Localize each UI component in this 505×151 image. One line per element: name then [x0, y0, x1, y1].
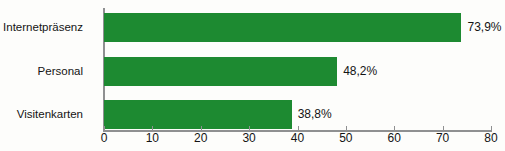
x-tick-mark [104, 126, 105, 130]
x-tick-label: 40 [291, 131, 304, 145]
x-tick-mark [346, 126, 347, 130]
x-tick-label: 80 [484, 131, 497, 145]
bar-personal [104, 57, 337, 86]
x-tick-label: 0 [101, 131, 108, 145]
x-tick-mark [249, 126, 250, 130]
category-label-1: Personal [0, 57, 83, 86]
bar-row: Personal 48,2% [104, 57, 491, 86]
bar-visitenkarten [104, 100, 292, 129]
x-tick-label: 60 [388, 131, 401, 145]
x-tick-mark [152, 126, 153, 130]
x-tick-mark [394, 126, 395, 130]
plot-area: Internetpräsenz 73,9% Personal 48,2% Vis… [104, 8, 491, 131]
x-tick-label: 30 [242, 131, 255, 145]
bar-internetpraesenz [104, 13, 461, 42]
category-label-2: Visitenkarten [0, 100, 83, 129]
bar-value-label-2: 38,8% [292, 100, 332, 129]
x-tick-mark [443, 126, 444, 130]
category-label-0: Internetpräsenz [0, 13, 83, 42]
x-tick-label: 50 [339, 131, 352, 145]
x-axis-ticks: 01020304050607080 [104, 126, 491, 151]
x-tick-label: 10 [146, 131, 159, 145]
bar-row: Visitenkarten 38,8% [104, 100, 491, 129]
bar-chart: Internetpräsenz 73,9% Personal 48,2% Vis… [0, 0, 505, 151]
x-tick-label: 20 [194, 131, 207, 145]
x-tick-mark [491, 126, 492, 130]
x-tick-mark [298, 126, 299, 130]
bar-row: Internetpräsenz 73,9% [104, 13, 491, 42]
bar-value-label-0: 73,9% [461, 13, 501, 42]
x-tick-mark [201, 126, 202, 130]
bar-value-label-1: 48,2% [337, 57, 377, 86]
x-tick-label: 70 [436, 131, 449, 145]
